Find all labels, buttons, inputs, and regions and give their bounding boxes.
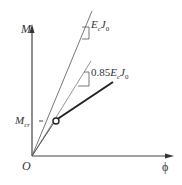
zero-subscript: 0: [106, 25, 110, 33]
factor-text: 0.85: [91, 66, 110, 78]
cracking-moment-label: Mcr: [15, 115, 30, 129]
zero-subscript: 0: [125, 73, 129, 81]
e-symbol: E: [110, 66, 117, 78]
moment-curvature-diagram: M ϕ O Mcr EcJ0 0.85EcJ0: [0, 0, 182, 185]
mcr-subscript: cr: [24, 121, 30, 129]
mcr-symbol: M: [15, 114, 24, 126]
initial-stiffness-label: EcJ0: [91, 19, 109, 33]
initial-stiffness-line: [32, 11, 92, 156]
x-axis-label: ϕ: [162, 161, 168, 173]
y-axis-label: M: [21, 23, 31, 35]
reduced-stiffness-label: 0.85EcJ0: [91, 67, 128, 81]
e-symbol: E: [91, 18, 98, 30]
post-crack-line: [56, 82, 113, 120]
origin-label: O: [22, 160, 31, 172]
pre-crack-line: [32, 121, 55, 156]
x-axis-arrow-icon: [165, 154, 174, 159]
cracking-point-marker: [53, 118, 59, 124]
